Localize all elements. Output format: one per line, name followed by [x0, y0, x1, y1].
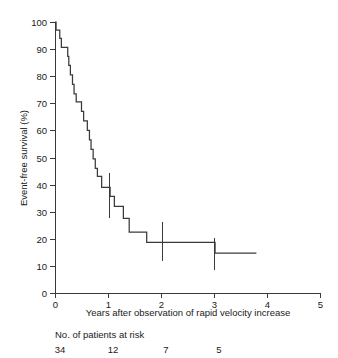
risk-table: No. of patients at risk 341275 [55, 329, 222, 355]
y-tick-label: 10 [36, 261, 47, 272]
confidence-interval-group [110, 173, 215, 270]
y-tick-label: 100 [31, 17, 47, 28]
risk-table-title: No. of patients at risk [55, 329, 144, 340]
y-tick-label: 50 [36, 153, 47, 164]
survival-chart-svg: 0102030405060708090100 012345 Years afte… [0, 0, 338, 358]
y-tick-label: 90 [36, 44, 47, 55]
kaplan-meier-figure: 0102030405060708090100 012345 Years afte… [0, 0, 338, 358]
risk-table-values: 341275 [55, 344, 222, 355]
risk-count: 5 [216, 344, 221, 355]
y-tick-label: 20 [36, 234, 47, 245]
y-tick-label: 30 [36, 207, 47, 218]
survival-curve [55, 22, 256, 253]
risk-count: 12 [108, 344, 119, 355]
y-tick-label: 70 [36, 98, 47, 109]
risk-count: 34 [55, 344, 66, 355]
x-tick-label: 0 [53, 299, 58, 310]
y-tick-group: 0102030405060708090100 [31, 17, 55, 299]
plot-area [55, 22, 256, 270]
y-tick-label: 60 [36, 125, 47, 136]
y-axis: 0102030405060708090100 [31, 17, 55, 299]
y-tick-label: 0 [42, 288, 47, 299]
x-tick-label: 5 [318, 299, 323, 310]
y-tick-label: 80 [36, 71, 47, 82]
x-axis-title: Years after observation of rapid velocit… [86, 307, 291, 318]
y-axis-title: Event-free survival (%) [18, 110, 29, 206]
y-tick-label: 40 [36, 180, 47, 191]
risk-count: 7 [163, 344, 168, 355]
